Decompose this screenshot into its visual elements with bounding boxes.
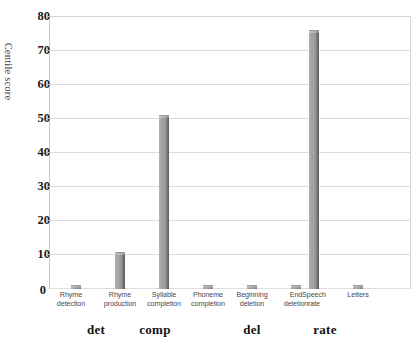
x-tick-label-syllable-completion: Syllable completion [142,290,186,308]
y-tick-label-0: 0 [34,283,46,298]
bar-syllable-completion [159,118,169,289]
x-tick-line1: Phoneme [193,290,223,299]
group-label-del: del [217,322,287,338]
bar-chart: Centile score 80 70 60 50 40 30 20 10 0 [0,0,419,347]
x-tick-label-speech-rate: Speech rate [292,290,336,308]
y-tick-label-10: 10 [16,248,50,261]
y-tick-label-50: 50 [16,112,50,125]
x-tick-line2: production [98,299,142,308]
x-tick-line2: completion [186,299,230,308]
y-tick-label-30: 30 [16,180,50,193]
x-tick-line1: Letters [347,290,368,299]
bars-layer [50,16,411,289]
x-tick-label-rhyme-detection: Rhyme detection [49,290,93,308]
bar-speech-rate [309,33,319,289]
y-tick-label-70: 70 [16,44,50,57]
y-tick-label-60: 60 [16,78,50,91]
x-axis-group-labels: det comp del rate [50,322,411,342]
x-tick-line1: Speech [302,290,326,299]
group-label-comp: comp [120,322,190,338]
x-tick-line1: Rhyme [109,290,131,299]
x-tick-label-phoneme-completion: Phoneme completion [186,290,230,308]
x-tick-line2: deletion [230,299,274,308]
y-tick-label-20: 20 [16,214,50,227]
y-tick-label-40: 40 [16,146,50,159]
x-tick-line1: Beginning [236,290,267,299]
x-tick-label-beginning-deletion: Beginning deletion [230,290,274,308]
bar-rhyme-production [115,255,125,289]
x-tick-label-rhyme-production: Rhyme production [98,290,142,308]
x-tick-line1: Rhyme [60,290,82,299]
x-tick-line1: Syllable [152,290,176,299]
x-axis-tick-labels: Rhyme detection Rhyme production Syllabl… [50,289,411,315]
y-tick-label-80: 80 [16,10,50,23]
x-tick-line2: detection [49,299,93,308]
x-tick-line2: rate [292,299,336,308]
group-label-rate: rate [290,322,360,338]
x-tick-line2: completion [142,299,186,308]
x-tick-label-letters: Letters [336,290,380,299]
